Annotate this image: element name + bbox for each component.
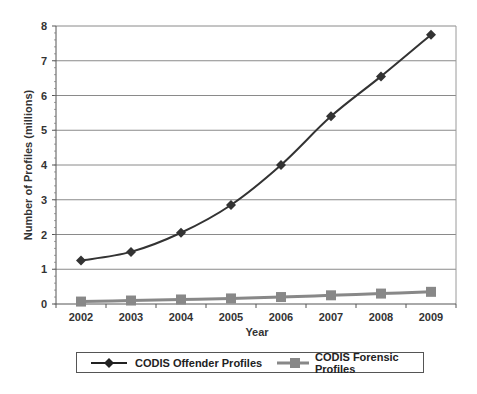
diamond-marker-icon bbox=[89, 357, 129, 369]
x-tick-label: 2009 bbox=[419, 311, 443, 323]
data-series bbox=[76, 30, 436, 307]
y-tick-label: 2 bbox=[41, 229, 47, 241]
square-marker-icon bbox=[376, 289, 386, 299]
diamond-marker-icon bbox=[176, 228, 186, 238]
y-axis-title: Number of Profiles (millions) bbox=[22, 89, 34, 240]
y-tick-label: 3 bbox=[41, 194, 47, 206]
legend-item-offender: CODIS Offender Profiles bbox=[89, 353, 262, 372]
y-tick-label: 8 bbox=[41, 20, 47, 32]
line-chart: 012345678 200220032004200520062007200820… bbox=[0, 0, 477, 350]
y-axis-ticks: 012345678 bbox=[41, 20, 56, 310]
series-offender-profiles bbox=[76, 30, 436, 266]
x-axis-ticks: 20022003200420052006200720082009 bbox=[56, 304, 456, 323]
square-marker-icon bbox=[226, 293, 236, 303]
y-tick-label: 6 bbox=[41, 90, 47, 102]
legend-label-offender: CODIS Offender Profiles bbox=[135, 357, 262, 369]
legend-item-forensic: CODIS Forensic Profiles bbox=[275, 353, 423, 372]
square-marker-icon bbox=[276, 292, 286, 302]
diamond-marker-icon bbox=[126, 247, 136, 257]
square-marker-icon bbox=[275, 357, 309, 369]
y-tick-label: 5 bbox=[41, 124, 47, 136]
diamond-marker-icon bbox=[76, 256, 86, 266]
x-tick-label: 2002 bbox=[69, 311, 93, 323]
x-tick-label: 2006 bbox=[269, 311, 293, 323]
x-tick-label: 2008 bbox=[369, 311, 393, 323]
y-tick-label: 0 bbox=[41, 298, 47, 310]
square-marker-icon bbox=[426, 287, 436, 297]
gridlines bbox=[56, 26, 456, 304]
legend-label-forensic: CODIS Forensic Profiles bbox=[315, 351, 423, 375]
square-marker-icon bbox=[76, 297, 86, 307]
x-tick-label: 2003 bbox=[119, 311, 143, 323]
square-marker-icon bbox=[326, 290, 336, 300]
y-tick-label: 1 bbox=[41, 263, 47, 275]
y-tick-label: 4 bbox=[41, 159, 48, 171]
x-tick-label: 2005 bbox=[219, 311, 243, 323]
x-tick-label: 2007 bbox=[319, 311, 343, 323]
y-tick-label: 7 bbox=[41, 55, 47, 67]
x-axis-title: Year bbox=[245, 326, 269, 338]
square-marker-icon bbox=[176, 294, 186, 304]
x-tick-label: 2004 bbox=[169, 311, 194, 323]
legend: CODIS Offender Profiles CODIS Forensic P… bbox=[76, 352, 424, 373]
square-marker-icon bbox=[126, 296, 136, 306]
